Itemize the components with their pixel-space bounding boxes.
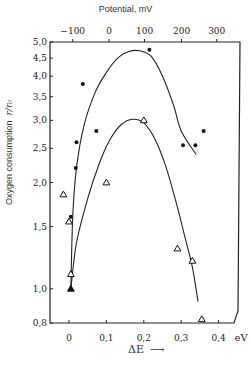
- filled-triangle-marker: [67, 285, 74, 291]
- bottom-tick-label: 0,3: [174, 333, 189, 343]
- open-triangle-marker: [174, 245, 181, 251]
- left-tick-label: 5,0: [33, 37, 48, 47]
- upper-fit-curve: [71, 50, 196, 288]
- plot-frame: [50, 42, 240, 323]
- top-tick-label: 300: [208, 26, 225, 36]
- filled-circle-marker: [181, 143, 185, 147]
- bottom-tick-label: 0,1: [99, 333, 113, 343]
- fit-curves: [71, 50, 198, 301]
- open-triangle-marker: [103, 179, 110, 185]
- open-triangle-marker: [198, 316, 205, 322]
- filled-circle-marker: [193, 143, 197, 147]
- open-triangle-marker: [66, 218, 73, 224]
- data-markers: [60, 48, 206, 322]
- open-triangle-marker: [60, 191, 67, 197]
- top-tick-label: −100: [60, 26, 85, 36]
- bottom-tick-label: 0,4: [211, 333, 226, 343]
- left-tick-label: 2,0: [33, 178, 48, 188]
- filled-circle-marker: [74, 140, 78, 144]
- left-tick-label: 0,8: [33, 318, 48, 328]
- filled-circle-marker: [94, 129, 98, 133]
- left-tick-label: 3,0: [33, 115, 48, 125]
- left-tick-label: 3,5: [33, 92, 48, 102]
- filled-circle-marker: [147, 48, 151, 52]
- bottom-tick-label: 0: [66, 333, 72, 343]
- left-tick-label: 1,5: [33, 222, 48, 232]
- left-tick-label: 4,5: [33, 53, 48, 63]
- chart-canvas: −1000100200300 00,10,20,30,4eV 0,81,01,5…: [0, 0, 251, 366]
- x-unit-label: eV: [235, 332, 249, 343]
- filled-circle-marker: [81, 82, 85, 86]
- top-tick-label: 0: [106, 26, 112, 36]
- filled-circle-marker: [202, 129, 206, 133]
- top-axis: −1000100200300: [60, 26, 225, 42]
- left-tick-label: 1,0: [33, 284, 48, 294]
- left-tick-label: 2,5: [33, 143, 48, 153]
- top-tick-label: 200: [173, 26, 190, 36]
- filled-circle-marker: [74, 166, 78, 170]
- open-triangle-marker: [140, 117, 147, 123]
- open-triangle-marker: [67, 271, 74, 277]
- plot-border: [50, 42, 240, 323]
- bottom-tick-label: 0,2: [137, 333, 151, 343]
- top-tick-label: 100: [136, 26, 153, 36]
- left-tick-label: 4,0: [33, 71, 48, 81]
- lower-fit-curve: [71, 119, 198, 301]
